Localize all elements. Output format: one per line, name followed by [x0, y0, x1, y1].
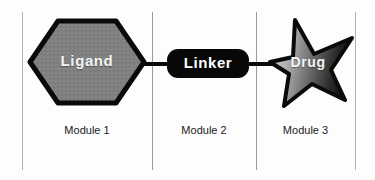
- drug-label: Drug: [286, 54, 330, 70]
- ligand-label: Ligand: [27, 52, 147, 69]
- figure-canvas: Ligand Linker Drug Module 1 Module 2 Mod…: [0, 0, 375, 180]
- module-boundary-left: [22, 12, 23, 170]
- linker-label: Linker: [167, 54, 249, 71]
- module-boundary-right: [355, 12, 356, 170]
- module-caption-2: Module 2: [152, 124, 256, 136]
- module-divider-1-2: [152, 12, 153, 170]
- module-caption-3: Module 3: [256, 124, 355, 136]
- module-caption-1: Module 1: [22, 124, 152, 136]
- module-divider-2-3: [256, 12, 257, 170]
